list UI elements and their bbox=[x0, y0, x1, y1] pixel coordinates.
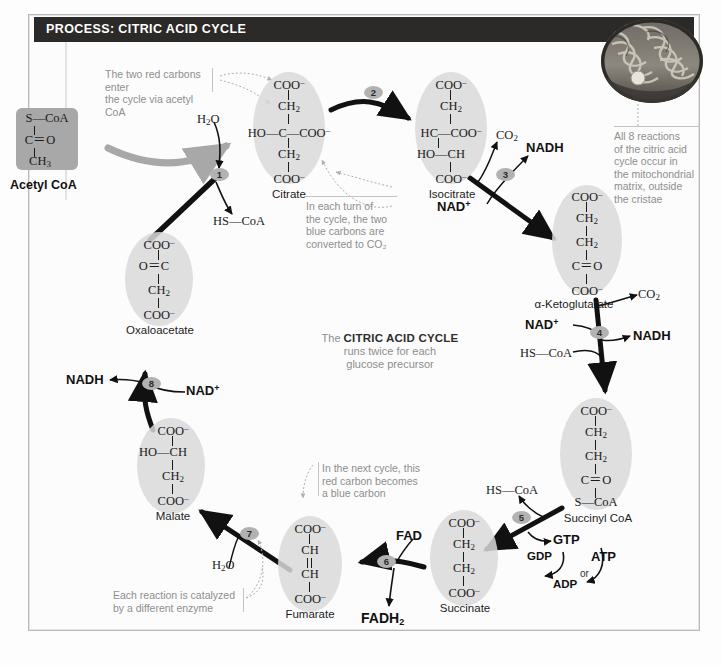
malate-line-1: COO– bbox=[146, 422, 200, 438]
centre-caption-line3: glucose precursor bbox=[346, 358, 433, 370]
annotation-bar-red-carbons bbox=[212, 68, 213, 92]
centre-caption: The CITRIC ACID CYCLE runs twice for eac… bbox=[305, 332, 475, 371]
fumarate-line-1: COO– bbox=[283, 520, 337, 536]
molecule-name-fumarate: Fumarate bbox=[276, 608, 344, 620]
isocitrate-line-3: HC—COO– bbox=[412, 124, 490, 140]
ketoglutarate-line-3: CH2 bbox=[560, 236, 614, 252]
molecule-name-malate: Malate bbox=[140, 510, 206, 522]
oxaloacetate-line-2: O＝C bbox=[122, 260, 186, 273]
isocitrate-line-2: CH2 bbox=[424, 100, 478, 116]
process-title-bar: PROCESS: CITRIC ACID CYCLE bbox=[34, 17, 694, 42]
label-nad-step8: NAD+ bbox=[186, 383, 219, 398]
oxaloacetate-line-4: COO– bbox=[132, 306, 186, 322]
step-badge-7: 7 bbox=[240, 527, 259, 540]
succinate-line-1: COO– bbox=[437, 514, 491, 530]
label-gdp: GDP bbox=[527, 550, 552, 562]
malate-line-4: COO– bbox=[146, 492, 200, 508]
label-gtp: GTP bbox=[553, 532, 580, 547]
label-fadh2: FADH2 bbox=[361, 610, 404, 627]
label-nadh-step4: NADH bbox=[633, 328, 671, 343]
acetyl-coa-label: Acetyl CoA bbox=[10, 178, 77, 192]
ketoglutarate-line-1: COO– bbox=[560, 188, 614, 204]
centre-caption-line1-light: The bbox=[322, 332, 344, 344]
fumarate-line-4: COO– bbox=[283, 590, 337, 606]
step-badge-5: 5 bbox=[512, 511, 531, 524]
mitochondrion-svg bbox=[600, 18, 704, 104]
fumarate-line-2: CH bbox=[283, 544, 337, 557]
label-nadh-step3: NADH bbox=[526, 140, 564, 155]
step-badge-8: 8 bbox=[142, 377, 161, 390]
label-co2-step4: CO2 bbox=[638, 287, 660, 302]
annotation-bar-enzyme bbox=[243, 588, 244, 612]
acetyl-coa-line-3: CH3 bbox=[16, 155, 64, 171]
malate-line-3: CH2 bbox=[146, 470, 200, 486]
citrate-line-2: CH2 bbox=[262, 100, 316, 116]
annotation-rule-mitochondrion bbox=[614, 126, 700, 127]
molecule-name-oxaloacetate: Oxaloacetate bbox=[112, 324, 208, 336]
label-h2o-step7: H2O bbox=[212, 558, 235, 573]
annotation-mitochondrion: All 8 reactions of the citric acid cycle… bbox=[614, 130, 710, 205]
step-badge-2: 2 bbox=[364, 86, 383, 99]
label-nad-step4: NAD+ bbox=[525, 317, 558, 332]
label-nadh-step8: NADH bbox=[66, 372, 104, 387]
centre-caption-line1-bold: CITRIC ACID CYCLE bbox=[344, 332, 459, 344]
label-hs-coa-step1: HS—CoA bbox=[213, 214, 265, 229]
succinate-line-4: COO– bbox=[437, 584, 491, 600]
succinyl-coa-line-2: CH2 bbox=[569, 426, 623, 442]
annotation-enzyme: Each reaction is catalyzed by a differen… bbox=[113, 589, 241, 614]
citrate-line-1: COO– bbox=[262, 76, 316, 92]
succinate-line-2: CH2 bbox=[437, 538, 491, 554]
annotation-rule-each-turn bbox=[305, 196, 397, 197]
annotation-each-turn: In each turn of the cycle, the two blue … bbox=[306, 200, 406, 250]
step-badge-3: 3 bbox=[496, 168, 515, 181]
ketoglutarate-line-4: C＝O bbox=[560, 260, 614, 273]
label-co2-step3: CO2 bbox=[496, 128, 518, 143]
succinyl-coa-line-1: COO– bbox=[569, 402, 623, 418]
citrate-line-4: CH2 bbox=[262, 148, 316, 164]
acetyl-coa-line-2: C＝O bbox=[16, 134, 64, 147]
oxaloacetate-line-1: COO– bbox=[132, 236, 186, 252]
succinyl-coa-line-3: CH2 bbox=[569, 450, 623, 466]
centre-caption-line2: runs twice for each bbox=[344, 345, 436, 357]
annotation-bar-next-cycle bbox=[318, 462, 319, 496]
label-adp: ADP bbox=[553, 578, 577, 590]
citric-acid-cycle-figure: PROCESS: CITRIC ACID CYCLE bbox=[0, 0, 722, 665]
molecule-name-citrate: Citrate bbox=[254, 188, 324, 200]
citrate-line-3: HO—C—COO– bbox=[236, 124, 342, 140]
label-atp: ATP bbox=[591, 549, 616, 564]
citrate-bond-2 bbox=[288, 114, 289, 124]
page-title: PROCESS: CITRIC ACID CYCLE bbox=[46, 22, 246, 36]
fumarate-line-3: CH bbox=[283, 568, 337, 581]
citrate-line-5: COO– bbox=[262, 170, 316, 186]
isocitrate-line-1: COO– bbox=[424, 76, 478, 92]
label-hs-coa-step5: HS—CoA bbox=[486, 483, 538, 498]
molecule-name-ketoglutarate: α-Ketoglutarate bbox=[514, 298, 634, 310]
isocitrate-line-5: COO– bbox=[424, 170, 478, 186]
ketoglutarate-line-5: COO– bbox=[560, 282, 614, 298]
malate-line-2: HO—CH bbox=[126, 446, 200, 459]
isocitrate-line-4: HO—CH bbox=[404, 148, 478, 161]
ketoglutarate-line-2: CH2 bbox=[560, 212, 614, 228]
label-hs-coa-step4: HS—CoA bbox=[520, 346, 572, 361]
succinate-line-3: CH2 bbox=[437, 562, 491, 578]
annotation-next-cycle: In the next cycle, this red carbon becom… bbox=[322, 462, 438, 500]
annotation-red-carbons: The two red carbons enter the cycle via … bbox=[105, 68, 211, 118]
step-badge-1: 1 bbox=[210, 168, 229, 181]
label-fad: FAD bbox=[396, 528, 422, 543]
molecule-name-succinate: Succinate bbox=[431, 602, 499, 614]
succinyl-coa-line-5: S—CoA bbox=[564, 496, 628, 509]
step-badge-4: 4 bbox=[590, 326, 609, 339]
mitochondrion-image bbox=[600, 18, 704, 104]
acetyl-coa-line-1: S—CoA bbox=[16, 112, 78, 125]
isocitrate-bond-2 bbox=[450, 114, 451, 124]
label-nad-step3: NAD+ bbox=[437, 199, 470, 214]
succinyl-coa-line-4: C＝O bbox=[569, 474, 623, 487]
oxaloacetate-line-3: CH2 bbox=[132, 284, 186, 300]
step-badge-6: 6 bbox=[377, 555, 396, 568]
molecule-name-succinyl-coa: Succinyl CoA bbox=[550, 512, 646, 524]
label-or: or bbox=[580, 568, 589, 581]
